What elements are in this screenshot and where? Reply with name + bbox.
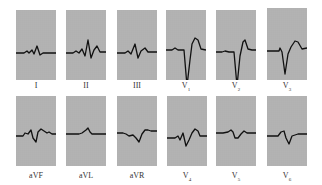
lead-label: aVR xyxy=(117,171,157,180)
ecg-lead-ii xyxy=(66,10,106,84)
ecg-lead-v3 xyxy=(267,8,307,84)
ecg-grid xyxy=(117,10,157,80)
ecg-lead-v1 xyxy=(166,10,206,84)
lead-label: V5 xyxy=(216,171,256,182)
ecg-lead-i xyxy=(16,10,56,84)
lead-label: V3 xyxy=(267,81,307,92)
ecg-grid xyxy=(166,10,206,80)
lead-label: aVF xyxy=(16,171,56,180)
ecg-lead-avf xyxy=(16,96,56,170)
lead-label: V1 xyxy=(166,81,206,92)
lead-label: V4 xyxy=(167,171,207,182)
ecg-grid xyxy=(267,8,307,80)
lead-label: V6 xyxy=(267,171,307,182)
ecg-grid xyxy=(267,96,307,166)
ecg-lead-v4 xyxy=(167,96,207,170)
lead-label: aVL xyxy=(66,171,106,180)
lead-label: II xyxy=(66,81,106,90)
lead-label: V2 xyxy=(216,81,256,92)
ecg-grid xyxy=(117,96,157,166)
ecg-grid xyxy=(216,10,256,80)
ecg-lead-avr xyxy=(117,96,157,170)
ecg-grid xyxy=(66,96,106,166)
ecg-grid xyxy=(66,10,106,80)
ecg-lead-v2 xyxy=(216,10,256,84)
ecg-lead-v5 xyxy=(216,96,256,170)
lead-label: III xyxy=(117,81,157,90)
ecg-grid xyxy=(216,96,256,166)
ecg-lead-v6 xyxy=(267,96,307,170)
lead-label: I xyxy=(16,81,56,90)
ecg-grid xyxy=(167,96,207,166)
ecg-grid xyxy=(16,96,56,166)
ecg-lead-iii xyxy=(117,10,157,84)
ecg-grid xyxy=(16,10,56,80)
ecg-lead-avl xyxy=(66,96,106,170)
